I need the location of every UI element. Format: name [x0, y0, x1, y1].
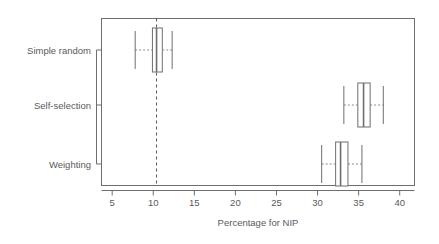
x-axis-title: Percentage for NIP — [218, 217, 299, 228]
x-tick-label: 10 — [148, 197, 159, 208]
boxplot-canvas: 510152025303540 Simple randomSelf-select… — [0, 0, 439, 244]
x-tick-label: 35 — [353, 197, 364, 208]
x-tick-label: 25 — [271, 197, 282, 208]
x-tick-label: 5 — [110, 197, 115, 208]
box-simple-random — [135, 28, 172, 72]
x-axis-group: 510152025303540 — [102, 191, 415, 209]
y-category-label: Self-selection — [34, 100, 91, 111]
x-tick-label: 20 — [230, 197, 241, 208]
x-tick-label: 30 — [312, 197, 323, 208]
boxplot-chart: 510152025303540 Simple randomSelf-select… — [0, 0, 439, 244]
y-category-label: Simple random — [27, 45, 91, 56]
box-iqr-rect — [152, 28, 162, 72]
x-tick-label: 15 — [189, 197, 200, 208]
y-axis-group: Simple randomSelf-selectionWeighting — [27, 45, 101, 170]
box-weighting — [322, 142, 362, 186]
y-category-label: Weighting — [49, 159, 91, 170]
x-tick-label: 40 — [394, 197, 405, 208]
box-iqr-rect — [336, 142, 348, 186]
box-group — [135, 28, 383, 186]
box-self-selection — [344, 83, 383, 127]
